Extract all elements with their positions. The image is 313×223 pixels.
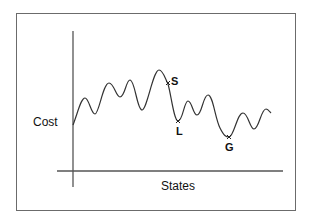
- point-label-l: L: [176, 125, 183, 137]
- point-label-s: S: [171, 75, 178, 87]
- point-label-g: G: [225, 141, 234, 153]
- cost-landscape-plot: [0, 0, 313, 223]
- y-axis-label: Cost: [33, 115, 58, 129]
- x-axis-label: States: [161, 179, 195, 193]
